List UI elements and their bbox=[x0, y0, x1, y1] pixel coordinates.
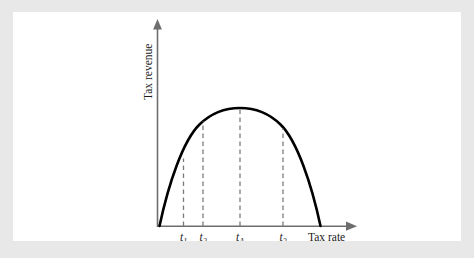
tick-label-t3: t3 bbox=[280, 231, 287, 241]
figure-plate: t1 t2 tA t3 Tax rate Tax revenue bbox=[13, 12, 461, 241]
chart-canvas: t1 t2 tA t3 Tax rate Tax revenue bbox=[13, 12, 461, 241]
tick-label-t1: t1 bbox=[180, 231, 187, 241]
y-axis-arrow-icon bbox=[153, 19, 162, 30]
laffer-curve-chart: t1 t2 tA t3 Tax rate Tax revenue bbox=[13, 12, 461, 241]
y-axis-title: Tax revenue bbox=[142, 44, 154, 100]
figure-frame: t1 t2 tA t3 Tax rate Tax revenue bbox=[0, 0, 474, 258]
x-axis bbox=[158, 222, 358, 231]
x-tick-labels: t1 t2 tA t3 bbox=[180, 231, 287, 241]
x-axis-arrow-icon bbox=[346, 222, 357, 231]
x-axis-title: Tax rate bbox=[308, 231, 345, 241]
y-axis bbox=[153, 19, 162, 227]
tick-label-tA: tA bbox=[236, 231, 244, 241]
tick-label-t2: t2 bbox=[200, 231, 207, 241]
